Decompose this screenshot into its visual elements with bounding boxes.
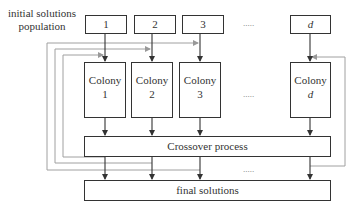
colony-ellipsis: ..... — [243, 89, 254, 99]
algorithm-flow-diagram: initial solutions population 1 2 3 d ...… — [0, 0, 364, 210]
colony-index: 3 — [180, 87, 220, 101]
crossover-process-box: Crossover process — [84, 136, 331, 157]
output-ellipsis: ..... — [243, 164, 254, 174]
population-box-label: d — [308, 18, 314, 30]
population-box-d: d — [290, 15, 331, 34]
colony-box-1: Colony 1 — [84, 62, 126, 118]
colony-box-2: Colony 2 — [131, 62, 173, 118]
colony-index: d — [291, 87, 330, 101]
colony-box-d: Colony d — [290, 62, 331, 118]
initial-solutions-label: initial solutions population — [2, 7, 82, 33]
final-solutions-box: final solutions — [84, 180, 331, 201]
colony-title: Colony — [132, 73, 172, 87]
population-box-label: 1 — [103, 18, 109, 30]
colony-title: Colony — [291, 73, 330, 87]
population-box-1: 1 — [85, 15, 127, 34]
population-box-2: 2 — [134, 15, 176, 34]
colony-title: Colony — [85, 73, 125, 87]
population-box-3: 3 — [182, 15, 224, 34]
initial-solutions-label-line1: initial solutions — [2, 7, 82, 20]
colony-title: Colony — [180, 73, 220, 87]
population-box-label: 3 — [200, 18, 206, 30]
colony-index: 2 — [132, 87, 172, 101]
colony-index: 1 — [85, 87, 125, 101]
top-ellipsis: ..... — [243, 18, 254, 28]
initial-solutions-label-line2: population — [2, 20, 82, 33]
population-box-label: 2 — [152, 18, 158, 30]
final-solutions-label: final solutions — [176, 184, 239, 196]
colony-box-3: Colony 3 — [179, 62, 221, 118]
crossover-process-label: Crossover process — [167, 140, 247, 152]
